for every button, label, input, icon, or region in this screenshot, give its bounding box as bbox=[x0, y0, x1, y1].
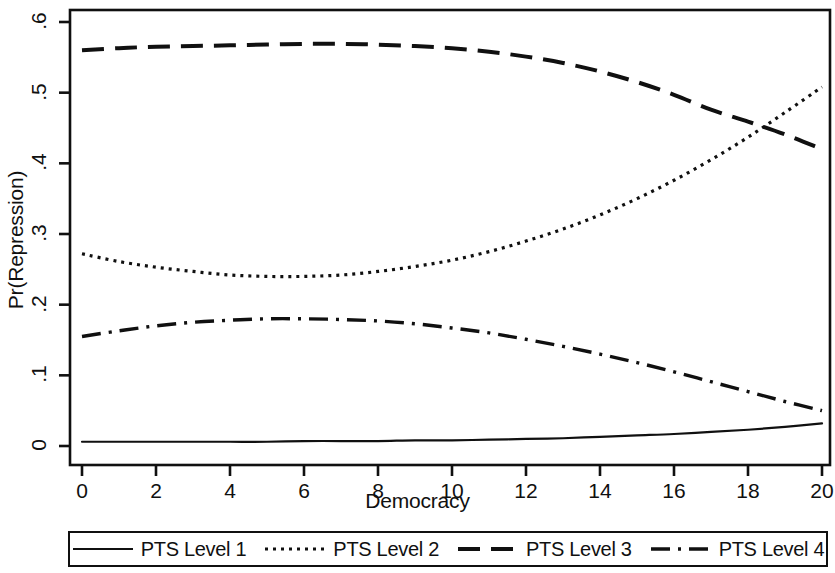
legend-item-label: PTS Level 3 bbox=[526, 538, 632, 561]
legend-item-label: PTS Level 4 bbox=[719, 538, 825, 561]
axis-ticks bbox=[59, 22, 822, 476]
legend-entries: PTS Level 1PTS Level 2PTS Level 3PTS Lev… bbox=[70, 533, 826, 565]
legend-line-swatch bbox=[72, 542, 134, 556]
chart-figure: Pr(Repression) Democracy 0.1.2.3.4.5.6 0… bbox=[0, 0, 835, 573]
legend-item: PTS Level 2 bbox=[255, 538, 448, 561]
legend-line-swatch bbox=[650, 542, 712, 556]
legend-line-swatch bbox=[264, 542, 326, 556]
series-line bbox=[82, 319, 822, 411]
legend-item: PTS Level 3 bbox=[448, 538, 641, 561]
axes-frame bbox=[70, 10, 830, 465]
legend-line-swatch bbox=[457, 542, 519, 556]
legend-item-label: PTS Level 2 bbox=[333, 538, 439, 561]
chart-legend: PTS Level 1PTS Level 2PTS Level 3PTS Lev… bbox=[68, 531, 828, 567]
data-series-lines bbox=[82, 44, 822, 442]
plot-frame bbox=[70, 10, 830, 465]
legend-item: PTS Level 1 bbox=[63, 538, 256, 561]
plot-area bbox=[0, 0, 835, 573]
legend-item-label: PTS Level 1 bbox=[141, 538, 247, 561]
legend-item: PTS Level 4 bbox=[641, 538, 834, 561]
series-line bbox=[82, 87, 822, 277]
series-line bbox=[82, 423, 822, 441]
series-line bbox=[82, 44, 822, 149]
